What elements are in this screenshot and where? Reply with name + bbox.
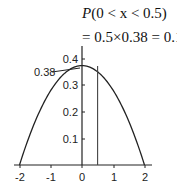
density-plot: -2 -1 0 1 2 0.1 0.2 0.3 0.4 0.38 [0,0,177,188]
svg-text:-2: -2 [15,171,25,183]
x-tick-labels: -2 -1 0 1 2 [15,171,148,183]
callout-label: 0.38 [34,66,55,78]
svg-text:0.4: 0.4 [63,53,78,65]
svg-text:0.3: 0.3 [63,79,78,91]
svg-text:-1: -1 [46,171,56,183]
svg-text:0: 0 [79,171,85,183]
svg-text:0.1: 0.1 [63,133,78,145]
svg-text:1: 1 [111,171,117,183]
svg-text:2: 2 [142,171,148,183]
svg-text:0.2: 0.2 [63,106,78,118]
